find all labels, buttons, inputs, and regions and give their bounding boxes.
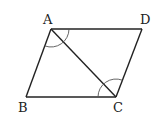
label-d: D: [140, 12, 150, 27]
geometry-diagram: A D B C: [0, 0, 167, 116]
label-a: A: [42, 12, 53, 27]
parallelogram: [26, 29, 142, 97]
label-b: B: [18, 100, 28, 115]
side-dc: [116, 29, 142, 97]
diagonal-ac: [51, 29, 116, 97]
side-ba: [26, 29, 51, 97]
label-c: C: [113, 100, 123, 115]
